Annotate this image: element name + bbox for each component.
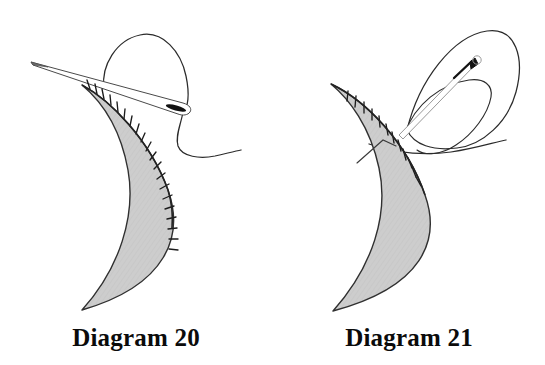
diagram-20-illustration [0,0,272,320]
thread-loop-outer [407,31,519,149]
diagram-sheet: Diagram 20 [0,0,545,365]
diagram-21-illustration [273,0,545,320]
diagram-panel-21: Diagram 21 [273,0,545,365]
diagram-panel-20: Diagram 20 [0,0,272,365]
caption-diagram-21: Diagram 21 [273,323,545,353]
needle-shaft [399,62,474,139]
needle [399,56,481,139]
fabric-crescent [82,85,174,310]
caption-diagram-20: Diagram 20 [0,323,272,353]
thread-tail-lower [177,112,241,157]
